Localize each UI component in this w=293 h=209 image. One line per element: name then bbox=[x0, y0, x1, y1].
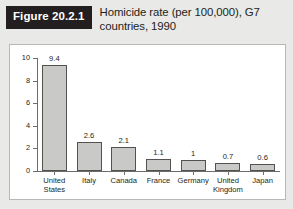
bar bbox=[146, 159, 171, 171]
category-label-line: Germany bbox=[178, 176, 209, 185]
figure-container: Figure 20.2.1 Homicide rate (per 100,000… bbox=[0, 0, 293, 209]
category-label: Japan bbox=[242, 176, 284, 185]
y-tick-mark bbox=[33, 81, 38, 82]
plot-area: 0246810 9.42.62.11.110.70.6 UnitedStates… bbox=[10, 45, 285, 199]
bar-value-label: 0.6 bbox=[245, 154, 281, 162]
category-label-line: Japan bbox=[252, 176, 273, 185]
bar bbox=[250, 164, 275, 171]
category-label-line: United bbox=[43, 176, 65, 185]
y-tick-label: 6 bbox=[12, 99, 30, 106]
bar-value-label: 1 bbox=[175, 150, 211, 158]
y-tick-mark bbox=[33, 103, 38, 104]
bar bbox=[215, 163, 240, 171]
chart-panel: 0246810 9.42.62.11.110.70.6 UnitedStates… bbox=[9, 44, 286, 200]
category-label-line: Canada bbox=[110, 176, 137, 185]
x-tick-mark bbox=[159, 172, 160, 175]
x-tick-mark bbox=[54, 172, 55, 175]
figure-header: Figure 20.2.1 Homicide rate (per 100,000… bbox=[0, 0, 293, 42]
figure-number-badge: Figure 20.2.1 bbox=[6, 6, 92, 29]
x-tick-mark bbox=[228, 172, 229, 175]
x-tick-mark bbox=[193, 172, 194, 175]
y-tick-label: 0 bbox=[12, 167, 30, 174]
x-tick-mark bbox=[263, 172, 264, 175]
y-tick-mark bbox=[33, 126, 38, 127]
y-tick-label: 8 bbox=[12, 77, 30, 84]
bar bbox=[42, 65, 67, 171]
bar bbox=[77, 142, 102, 171]
bar bbox=[111, 147, 136, 171]
bar-value-label: 2.6 bbox=[71, 132, 107, 140]
category-label-line: States bbox=[44, 185, 66, 194]
x-tick-mark bbox=[124, 172, 125, 175]
category-label-line: Kingdom bbox=[213, 185, 243, 194]
bar-value-label: 9.4 bbox=[36, 55, 72, 63]
bar bbox=[181, 160, 206, 171]
bar-value-label: 2.1 bbox=[106, 137, 142, 145]
y-tick-label: 2 bbox=[12, 144, 30, 151]
bar-value-label: 1.1 bbox=[141, 149, 177, 157]
y-tick-label: 10 bbox=[12, 54, 30, 61]
x-tick-mark bbox=[89, 172, 90, 175]
y-tick-label: 4 bbox=[12, 122, 30, 129]
figure-title: Homicide rate (per 100,000), G7 countrie… bbox=[100, 5, 287, 33]
category-label-line: United bbox=[217, 176, 239, 185]
y-tick-mark bbox=[33, 171, 38, 172]
category-label-line: France bbox=[147, 176, 171, 185]
bar-value-label: 0.7 bbox=[210, 153, 246, 161]
y-tick-mark bbox=[33, 148, 38, 149]
y-axis-line bbox=[37, 58, 38, 171]
category-label-line: Italy bbox=[82, 176, 96, 185]
